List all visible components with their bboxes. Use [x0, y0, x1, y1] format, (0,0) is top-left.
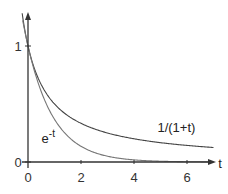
ticks-layer: 024601 — [14, 39, 190, 186]
x-axis-label: t — [218, 156, 222, 171]
series-line-exponential — [23, 20, 214, 162]
x-tick-label: 2 — [77, 170, 84, 185]
curves-layer — [22, 13, 213, 162]
x-tick-label: 0 — [24, 170, 31, 185]
y-axis-arrow-icon — [25, 12, 31, 20]
annotation-reciprocal: 1/(1+t) — [157, 120, 195, 135]
x-tick-label: 6 — [183, 170, 190, 185]
y-tick-label: 1 — [14, 39, 21, 54]
annotation-exponential-base: e — [42, 131, 49, 146]
y-tick-label: 0 — [14, 155, 21, 170]
x-tick-label: 4 — [130, 170, 137, 185]
annotation-exponential: e-t — [42, 128, 56, 146]
x-axis-arrow-icon — [208, 159, 216, 165]
annotation-exponential-superscript: -t — [49, 128, 55, 139]
chart: 024601 t 1/(1+t) e-t — [0, 0, 228, 194]
